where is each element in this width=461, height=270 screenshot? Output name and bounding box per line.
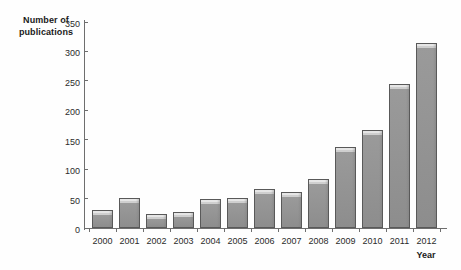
- x-tick-mark: [197, 228, 198, 232]
- bar-slot: [89, 22, 116, 228]
- x-tick-mark: [251, 228, 252, 232]
- x-axis-line: [84, 228, 447, 229]
- bar-slot: [251, 22, 278, 228]
- bar-slot: [332, 22, 359, 228]
- x-tick-mark: [386, 228, 387, 232]
- bar-chart: Number of publications 05010015020025030…: [0, 0, 461, 270]
- bar[interactable]: [200, 199, 221, 228]
- y-tick-label: 300: [65, 48, 84, 58]
- bar[interactable]: [254, 189, 275, 228]
- x-tick-mark: [89, 228, 90, 232]
- y-tick: 0: [75, 219, 84, 237]
- x-tick-mark: [170, 228, 171, 232]
- x-axis-title: Year: [404, 250, 448, 260]
- bar[interactable]: [335, 147, 356, 228]
- y-tick-label: 50: [70, 196, 84, 206]
- bar-slot: [386, 22, 413, 228]
- bar[interactable]: [308, 179, 329, 228]
- bar[interactable]: [389, 84, 410, 228]
- bar[interactable]: [119, 198, 140, 228]
- bar[interactable]: [227, 198, 248, 228]
- bar[interactable]: [362, 130, 383, 228]
- bar-slot: [224, 22, 251, 228]
- x-tick-label: 2012: [407, 236, 447, 246]
- bar-slot: [143, 22, 170, 228]
- bar-slot: [197, 22, 224, 228]
- bar-slot: [170, 22, 197, 228]
- bar-slot: [278, 22, 305, 228]
- bar[interactable]: [92, 210, 113, 228]
- x-tick-mark: [278, 228, 279, 232]
- x-tick-mark: [440, 228, 441, 232]
- y-tick: 350: [65, 13, 84, 31]
- bar[interactable]: [281, 192, 302, 228]
- y-tick-label: 250: [65, 78, 84, 88]
- bar-slot: [413, 22, 440, 228]
- y-tick-label: 0: [75, 225, 84, 235]
- x-tick-mark: [224, 228, 225, 232]
- y-tick-label: 350: [65, 19, 84, 29]
- bar[interactable]: [416, 43, 437, 228]
- y-tick-label: 100: [65, 166, 84, 176]
- y-tick: 50: [70, 190, 84, 208]
- bar[interactable]: [173, 212, 194, 228]
- bar-slot: [359, 22, 386, 228]
- plot-area: 050100150200250300350: [84, 22, 447, 228]
- bar-slot: [116, 22, 143, 228]
- y-tick-label: 150: [65, 137, 84, 147]
- bar-slot: [305, 22, 332, 228]
- x-tick-mark: [359, 228, 360, 232]
- x-tick-mark: [332, 228, 333, 232]
- x-tick-mark: [413, 228, 414, 232]
- y-tick-label: 200: [65, 107, 84, 117]
- x-tick-mark: [305, 228, 306, 232]
- x-tick-mark: [116, 228, 117, 232]
- x-tick-mark: [143, 228, 144, 232]
- y-tick: 250: [65, 72, 84, 90]
- y-tick: 200: [65, 101, 84, 119]
- y-tick: 100: [65, 160, 84, 178]
- bar-series: [84, 22, 447, 228]
- y-tick: 300: [65, 42, 84, 60]
- y-tick: 150: [65, 131, 84, 149]
- bar[interactable]: [146, 214, 167, 228]
